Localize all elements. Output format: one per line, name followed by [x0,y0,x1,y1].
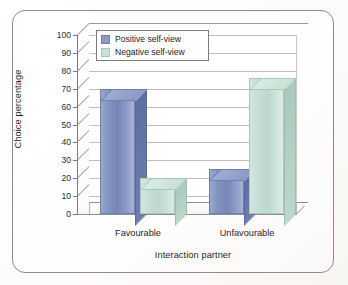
x-tick-label-unfavourable: Unfavourable [187,228,307,238]
plot-top-edge [89,23,308,24]
y-tick-90 [73,53,77,54]
bar-side-face [284,78,296,226]
y-tick-label-40: 40 [45,138,71,147]
y-axis-tick-labels: 100 90 80 70 60 50 40 30 20 10 0 [41,0,71,285]
legend-item-positive[interactable]: Positive self-view [101,33,204,46]
y-tick-30 [73,160,77,161]
y-tick-label-0: 0 [45,210,71,219]
bar-favourable-positive[interactable] [100,89,135,214]
y-tick-80 [73,71,77,72]
floor-left-edge [89,202,90,214]
x-axis-title: Interaction partner [77,250,309,260]
y-tick-label-100: 100 [45,31,71,40]
y-tick-0 [73,214,77,215]
legend-swatch-icon-positive [101,35,110,44]
y-axis-line [77,35,78,215]
plot-right-edge [296,35,297,214]
y-tick-50 [73,125,77,126]
y-tick-label-60: 60 [45,103,71,112]
y-tick-60 [73,107,77,108]
y-tick-label-70: 70 [45,85,71,94]
y-tick-label-30: 30 [45,156,71,165]
plot-area: 100 90 80 70 60 50 40 30 20 10 0 [0,0,348,285]
bar-unfavourable-negative[interactable] [249,78,284,214]
y-tick-label-50: 50 [45,121,71,130]
y-tick-20 [73,178,77,179]
figure: 100 90 80 70 60 50 40 30 20 10 0 [0,0,348,285]
legend: Positive self-view Negative self-view [96,30,209,61]
y-axis-title: Choice percentage [13,54,23,164]
y-tick-70 [73,89,77,90]
bar-unfavourable-positive[interactable] [209,169,244,214]
y-tick-label-90: 90 [45,49,71,58]
y-tick-100 [73,35,77,36]
gridline-80 [77,71,296,72]
bar-front-face [249,78,284,214]
floor-right-diagonal [296,206,305,215]
legend-label-positive: Positive self-view [115,35,181,44]
legend-label-negative: Negative self-view [115,48,185,57]
y-tick-label-20: 20 [45,174,71,183]
legend-item-negative[interactable]: Negative self-view [101,46,204,59]
bar-front-face [100,89,135,214]
y-tick-label-10: 10 [45,192,71,201]
y-tick-40 [73,142,77,143]
legend-swatch-icon-negative [101,48,110,57]
bar-favourable-negative[interactable] [140,178,175,214]
x-tick-label-favourable: Favourable [78,228,198,238]
y-tick-10 [73,196,77,197]
y-tick-label-80: 80 [45,67,71,76]
